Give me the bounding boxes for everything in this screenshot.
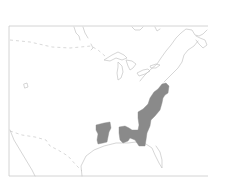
great-lakes [104,52,160,80]
range-east [119,83,169,146]
map-frame [9,26,208,176]
great-salt-lake [24,83,28,88]
mexico-west-coast [10,130,35,176]
nova-scotia-coast [196,36,207,48]
northern-coast-2 [132,27,160,31]
atlantic-coast [140,29,207,82]
range-west [96,122,111,144]
canada-us-border [10,40,105,56]
distribution-range [96,83,169,146]
range-map [0,0,226,183]
gulf-coast [81,142,162,176]
